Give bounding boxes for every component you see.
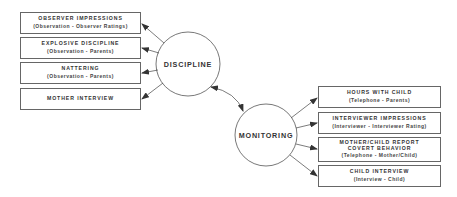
indicator-explosive-discipline: EXPLOSIVE DISCIPLINE (Observation - Pare… (20, 37, 141, 59)
arrow-discipline-observer-impressions (142, 24, 164, 43)
indicator-title: MOTHER INTERVIEW (47, 96, 114, 102)
indicator-mother-child-report: MOTHER/CHILD REPORT COVERT BEHAVIOR (Tel… (318, 137, 441, 162)
indicator-title: NATTERING (62, 66, 100, 72)
indicator-title: INTERVIEWER IMPRESSIONS (332, 116, 426, 122)
arrow-discipline-explosive-discipline (142, 48, 159, 53)
arrow-monitoring-covert-behavior (296, 144, 317, 149)
indicator-nattering: NATTERING (Observation - Parents) (20, 62, 141, 84)
indicator-title: EXPLOSIVE DISCIPLINE (42, 41, 120, 47)
arrow-discipline-monitoring-correlation (211, 87, 243, 111)
indicator-source: (Observation - Parents) (47, 49, 114, 55)
monitoring-label: MONITORING (239, 131, 294, 140)
indicator-source: (Telephone - Mother/Child) (342, 153, 418, 159)
indicator-source: (Telephone - Parents) (349, 98, 410, 104)
arrow-discipline-mother-interview (142, 83, 163, 99)
arrow-monitoring-interviewer-impressions (296, 123, 317, 128)
indicator-source: (Interview - Child) (354, 177, 405, 183)
indicator-source: (Observation - Parents) (47, 74, 114, 80)
arrow-monitoring-hours-with-child (291, 98, 317, 118)
indicator-title: OBSERVER IMPRESSIONS (38, 16, 123, 22)
arrow-discipline-nattering (142, 70, 158, 73)
arrow-monitoring-child-interview (290, 155, 317, 176)
indicator-source: (Interviewer - Interviewer Rating) (332, 124, 427, 130)
indicator-observer-impressions: OBSERVER IMPRESSIONS (Observation - Obse… (20, 12, 141, 34)
indicator-child-interview: CHILD INTERVIEW (Interview - Child) (318, 165, 441, 187)
indicator-interviewer-impressions: INTERVIEWER IMPRESSIONS (Interviewer - I… (318, 112, 441, 134)
indicator-hours-with-child: HOURS WITH CHILD (Telephone - Parents) (318, 86, 441, 108)
indicator-source: (Observation - Observer Ratings) (33, 24, 128, 30)
indicator-title: CHILD INTERVIEW (350, 169, 410, 175)
indicator-title: HOURS WITH CHILD (347, 90, 412, 96)
indicator-mother-interview: MOTHER INTERVIEW (20, 88, 141, 110)
discipline-label: DISCIPLINE (164, 60, 212, 69)
